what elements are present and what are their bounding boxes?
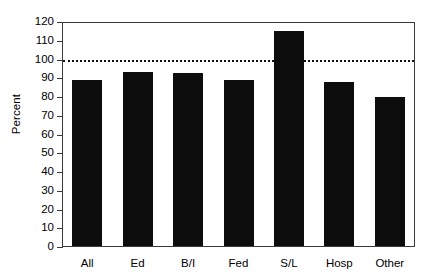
x-axis-ticks: AllEdB/IFedS/LHospOther [0,0,427,276]
x-tick-label: Other [360,258,420,270]
bar-chart: Percent 0102030405060708090100110120 All… [0,0,427,276]
